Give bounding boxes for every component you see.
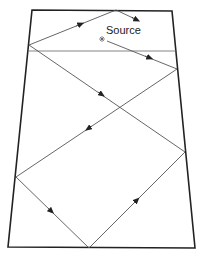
trapezoid-boundary <box>8 10 195 248</box>
source-star-icon <box>99 36 105 42</box>
arrow-icon <box>76 24 81 26</box>
arrow-icon <box>132 18 137 21</box>
ray-segment-source-to-right <box>107 41 177 69</box>
arrow-icon <box>48 208 52 211</box>
arrow-icon <box>134 200 137 203</box>
arrow-icon <box>145 56 150 58</box>
ray-segment-left-to-bottom <box>16 177 89 248</box>
source-label: Source <box>106 24 141 36</box>
arrow-icon <box>88 126 92 129</box>
diagram-svg <box>0 0 203 261</box>
ray-reflection-diagram: Source <box>0 0 203 261</box>
arrow-icon <box>98 92 102 95</box>
ray-segment-right-to-left-upper <box>29 45 185 152</box>
ray-segment-right-to-left-lower <box>16 69 177 177</box>
